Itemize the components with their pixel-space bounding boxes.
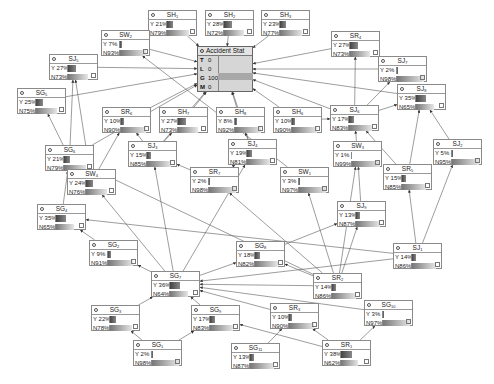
- yes-row: Y 21%: [149, 20, 196, 29]
- node-sg9[interactable]: SG9Y 17%N83%: [191, 305, 240, 331]
- node-header: SH6: [274, 108, 321, 117]
- edge-arrow: [131, 331, 142, 340]
- resize-handle-icon[interactable]: [372, 124, 377, 129]
- resize-handle-icon[interactable]: [170, 160, 175, 165]
- yes-row: Y 27%: [332, 41, 379, 50]
- node-sj6[interactable]: SJ6Y 17%N83%: [330, 105, 379, 131]
- node-header: SG1: [134, 341, 181, 350]
- edge-arrow: [367, 82, 390, 105]
- node-sr4[interactable]: SR4Y 27%N73%: [331, 31, 380, 57]
- resize-handle-icon[interactable]: [379, 220, 384, 225]
- node-sh6[interactable]: SH6Y 10%N90%: [273, 107, 322, 133]
- node-sg3[interactable]: SG3Y 22%N78%: [91, 305, 140, 331]
- node-sr5[interactable]: SR5Y 15%N85%: [383, 164, 432, 190]
- resize-handle-icon[interactable]: [375, 160, 380, 165]
- resize-handle-icon[interactable]: [435, 262, 440, 267]
- node-sw3[interactable]: SW3Y 1%N99%: [333, 141, 382, 167]
- resize-handle-icon[interactable]: [193, 290, 198, 295]
- node-sr2[interactable]: SR2Y 14%N86%: [313, 273, 362, 299]
- node-sg10[interactable]: SG10Y 3%N97%: [364, 300, 413, 326]
- no-label: N65%: [399, 103, 415, 111]
- no-row: N93%: [102, 49, 149, 58]
- yes-bar: [86, 180, 93, 187]
- node-sh3[interactable]: SH3Y 23%N77%: [261, 10, 310, 36]
- yes-row: Y 10%: [274, 117, 321, 126]
- yes-label: Y 17%: [332, 115, 348, 123]
- node-sj8[interactable]: SJ8Y 35%N65%: [397, 84, 446, 110]
- resize-handle-icon[interactable]: [175, 359, 180, 364]
- node-sg4[interactable]: SG4Y 35%N65%: [37, 204, 86, 230]
- resize-handle-icon[interactable]: [273, 362, 278, 367]
- resize-handle-icon[interactable]: [278, 260, 283, 265]
- resize-handle-icon[interactable]: [233, 324, 238, 329]
- node-sw4[interactable]: SW4Y 24%N76%: [67, 169, 116, 195]
- node-sh7[interactable]: SH7Y 27%N73%: [159, 107, 208, 133]
- resize-handle-icon[interactable]: [364, 359, 369, 364]
- edge-arrow: [177, 164, 190, 169]
- edge-arrow: [253, 49, 331, 64]
- resize-handle-icon[interactable]: [406, 319, 411, 324]
- node-sr1[interactable]: SR1Y 38%N62%: [322, 340, 371, 366]
- yes-row: Y 8%: [217, 117, 264, 126]
- yes-row: Y 3%: [365, 310, 412, 319]
- edge-arrow: [309, 193, 334, 273]
- no-bar: [68, 74, 88, 81]
- accident-stat-node[interactable]: Accident Stat T0 L0 G100% M0: [197, 46, 253, 92]
- node-sg7[interactable]: SG7Y 36%N64%: [151, 271, 200, 297]
- node-sh1[interactable]: SH1Y 21%N79%: [148, 10, 197, 36]
- node-sj2[interactable]: SJ2Y 5%N95%: [433, 139, 482, 165]
- resize-handle-icon[interactable]: [355, 292, 360, 297]
- node-sj5[interactable]: SJ5Y 27%N73%: [49, 54, 98, 80]
- yes-bar: [121, 118, 124, 125]
- resize-handle-icon[interactable]: [232, 186, 237, 191]
- node-sj7[interactable]: SJ7Y 2%N98%: [378, 56, 427, 82]
- resize-handle-icon[interactable]: [143, 49, 148, 54]
- node-sw1[interactable]: SW1Y 3%N97%: [280, 167, 329, 193]
- edge-arrow: [80, 230, 94, 240]
- yes-bar: [412, 254, 416, 261]
- resize-handle-icon[interactable]: [425, 183, 430, 188]
- node-sj1[interactable]: SJ1Y 14%N86%: [393, 243, 442, 269]
- node-sw2[interactable]: SW2Y 7%N93%: [101, 30, 150, 56]
- resize-handle-icon[interactable]: [109, 188, 114, 193]
- node-sg2[interactable]: SG2Y 9%N91%: [89, 240, 138, 266]
- resize-handle-icon[interactable]: [270, 158, 275, 163]
- node-sg1[interactable]: SG1Y 2%N98%: [133, 340, 182, 366]
- node-sj4[interactable]: SJ4Y 19%N81%: [228, 139, 277, 165]
- resize-handle-icon[interactable]: [258, 126, 263, 131]
- yes-bar: [332, 284, 336, 291]
- yes-label: Y 14%: [395, 253, 411, 261]
- node-sj3[interactable]: SJ3Y 15%N85%: [128, 141, 177, 167]
- resize-handle-icon[interactable]: [322, 186, 327, 191]
- resize-handle-icon[interactable]: [59, 107, 64, 112]
- node-sr7[interactable]: SR7Y 2%N98%: [190, 167, 239, 193]
- edge-arrow: [356, 131, 357, 141]
- resize-handle-icon[interactable]: [439, 103, 444, 108]
- resize-handle-icon[interactable]: [373, 50, 378, 55]
- node-sg11[interactable]: SG11Y 13%N87%: [231, 343, 280, 369]
- resize-handle-icon[interactable]: [475, 158, 480, 163]
- node-sg8[interactable]: SG8Y 18%N82%: [236, 241, 285, 267]
- node-sg5[interactable]: SG5Y 25%N75%: [17, 88, 66, 114]
- resize-handle-icon[interactable]: [79, 223, 84, 228]
- resize-handle-icon[interactable]: [144, 126, 149, 131]
- no-label: N92%: [218, 126, 234, 134]
- resize-handle-icon[interactable]: [247, 29, 252, 34]
- node-sh2[interactable]: SH2Y 28%N72%: [205, 10, 254, 36]
- resize-handle-icon[interactable]: [133, 324, 138, 329]
- resize-handle-icon[interactable]: [420, 75, 425, 80]
- node-sj9[interactable]: SJ9Y 13%N87%: [337, 201, 386, 227]
- resize-handle-icon[interactable]: [201, 126, 206, 131]
- resize-handle-icon[interactable]: [131, 259, 136, 264]
- node-sg6[interactable]: SG6Y 21%N79%: [45, 145, 94, 171]
- yes-row: Y 27%: [50, 64, 97, 73]
- node-sh8[interactable]: SH8Y 8%N92%: [216, 107, 265, 133]
- resize-handle-icon[interactable]: [303, 29, 308, 34]
- resize-handle-icon[interactable]: [91, 73, 96, 78]
- resize-handle-icon[interactable]: [190, 29, 195, 34]
- resize-handle-icon[interactable]: [312, 322, 317, 327]
- node-sr3[interactable]: SR3Y 10%N90%: [270, 303, 319, 329]
- resize-handle-icon[interactable]: [315, 126, 320, 131]
- no-row: N98%: [379, 75, 426, 84]
- node-sr6[interactable]: SR6Y 10%N90%: [102, 107, 151, 133]
